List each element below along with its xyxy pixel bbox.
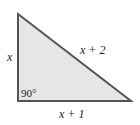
triangle-diagram: x x + 2 x + 1 90° — [0, 0, 140, 125]
bottom-side-label: x + 1 — [58, 107, 84, 121]
hypotenuse-label: x + 2 — [79, 43, 105, 57]
left-side-label: x — [6, 50, 13, 64]
right-angle-label: 90° — [21, 87, 36, 99]
